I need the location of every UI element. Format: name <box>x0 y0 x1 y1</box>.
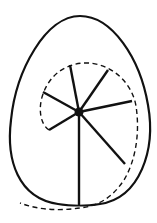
spoke-lower-left <box>49 112 79 130</box>
spokes-group <box>43 65 132 205</box>
spoke-right <box>79 101 132 112</box>
spoke-left <box>43 92 79 112</box>
spoke-top <box>70 65 79 112</box>
egg-spiral-diagram <box>0 0 157 223</box>
center-hub <box>75 108 84 117</box>
spoke-lower-right <box>79 112 125 164</box>
